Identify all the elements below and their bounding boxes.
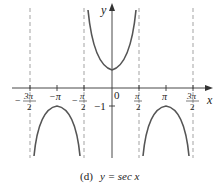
- asymptotes: [30, 8, 193, 158]
- svg-text:−: −: [15, 95, 21, 106]
- axes: [12, 8, 207, 158]
- y-tick-label-neg1: −1: [94, 100, 106, 112]
- svg-text:2: 2: [136, 102, 141, 112]
- x-axis-label: x: [206, 93, 213, 107]
- svg-text:π: π: [80, 91, 85, 101]
- svg-text:3π: 3π: [186, 91, 197, 101]
- svg-text:−: −: [72, 95, 78, 106]
- y-axis-label: y: [100, 3, 107, 17]
- svg-text:−π: −π: [49, 91, 62, 102]
- svg-text:2: 2: [81, 102, 86, 112]
- origin-label: 0: [114, 89, 120, 101]
- sec-graph: y x 0 −1 − 3π 2 −π − π 2 π 2 π 3π 2 (d) …: [0, 0, 218, 187]
- caption-prefix: (d): [80, 170, 93, 183]
- svg-text:π: π: [162, 91, 168, 102]
- svg-text:2: 2: [190, 102, 195, 112]
- svg-text:3π: 3π: [23, 91, 34, 101]
- curve-left-branch: [34, 106, 80, 156]
- svg-text:π: π: [135, 91, 140, 101]
- y-axis-arrow-icon: [109, 3, 115, 11]
- curve-right-branch: [143, 106, 189, 156]
- x-axis-arrow-icon: [205, 85, 213, 91]
- caption-equation: y = sec x: [99, 170, 140, 182]
- svg-text:2: 2: [27, 102, 32, 112]
- sec-curves: [34, 10, 189, 156]
